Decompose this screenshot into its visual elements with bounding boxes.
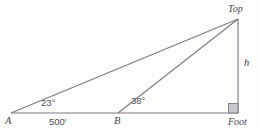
vertex-label-top: Top: [228, 4, 243, 14]
angle-label-b: 38°: [131, 96, 145, 106]
angle-label-a: 23°: [41, 98, 55, 108]
vertex-label-b: B: [114, 116, 120, 127]
length-label-base: 500': [49, 117, 67, 127]
triangle-figure: [0, 0, 260, 131]
vertex-label-foot: Foot: [228, 117, 247, 127]
right-angle-marker-icon: [229, 104, 239, 114]
diagram-canvas: Top h Foot A B 23° 38° 500': [0, 0, 260, 131]
vertex-label-a: A: [5, 116, 11, 127]
height-label-h: h: [244, 58, 249, 69]
